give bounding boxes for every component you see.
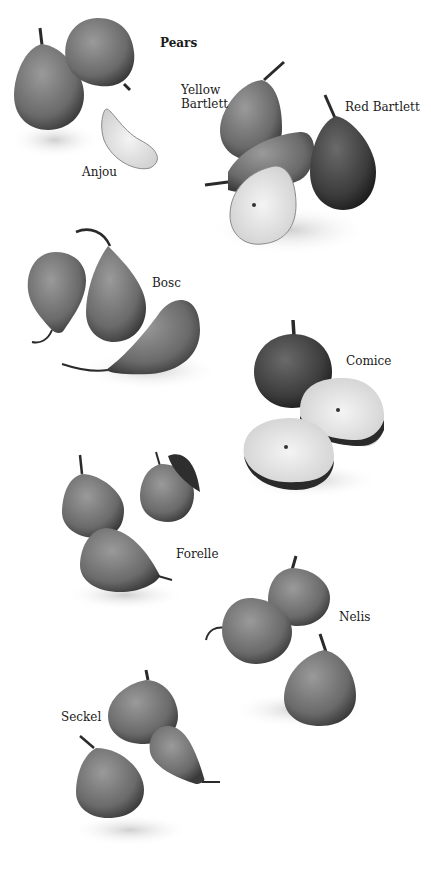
nelis-pears (206, 556, 370, 728)
comice-pears (240, 320, 384, 498)
label-red-bartlett: Red Bartlett (345, 100, 420, 114)
label-bosc: Bosc (152, 276, 181, 290)
label-nelis: Nelis (339, 610, 370, 624)
pear-photo-illustration (0, 0, 431, 870)
label-anjou: Anjou (82, 165, 117, 179)
page-title: Pears (160, 36, 197, 50)
bartlett-pears (205, 62, 376, 255)
label-forelle: Forelle (176, 547, 219, 561)
label-comice: Comice (346, 354, 391, 368)
seckel-pears (70, 670, 220, 846)
bosc-pears (28, 230, 220, 390)
anjou-pears (10, 18, 157, 169)
forelle-pears (62, 452, 200, 610)
label-yellow-bartlett: Yellow Bartlett (181, 83, 228, 111)
label-seckel: Seckel (61, 710, 101, 724)
